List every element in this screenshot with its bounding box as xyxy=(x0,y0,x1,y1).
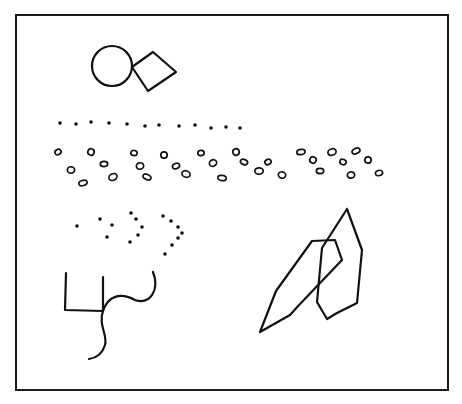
ring-mark xyxy=(375,170,383,177)
wavy-figure xyxy=(65,272,155,359)
dot-mark xyxy=(169,219,173,223)
dot-mark xyxy=(98,217,102,221)
circle-diamond-group xyxy=(92,46,176,91)
ring-mark xyxy=(136,162,144,170)
gestalt-figure xyxy=(0,0,462,404)
dot-mark xyxy=(136,233,140,237)
dot-mark xyxy=(209,126,213,130)
ring-mark xyxy=(240,158,249,166)
diamond-shape xyxy=(132,52,176,91)
dot-row xyxy=(58,120,242,130)
dot-mark xyxy=(110,223,114,227)
dot-mark xyxy=(180,231,184,235)
ring-mark xyxy=(351,147,361,156)
ring-mark xyxy=(309,156,318,165)
dot-mark xyxy=(129,211,133,215)
ring-mark xyxy=(255,168,264,175)
ring-mark xyxy=(316,168,324,174)
circle-shape xyxy=(92,46,132,86)
ring-mark xyxy=(296,149,305,156)
dot-mark xyxy=(75,224,79,228)
dot-mark xyxy=(157,123,161,127)
figure-frame xyxy=(16,15,448,390)
dot-mark xyxy=(177,124,181,128)
square-bracket-shape xyxy=(65,273,103,311)
ring-mark xyxy=(217,175,226,181)
ring-mark xyxy=(161,152,168,159)
overlapping-polygons xyxy=(260,209,362,332)
dot-mark xyxy=(176,225,180,229)
dot-mark xyxy=(140,225,144,229)
ring-mark xyxy=(108,172,118,181)
dot-mark xyxy=(89,120,93,124)
dot-mark xyxy=(107,121,111,125)
dot-arrow-cluster xyxy=(75,211,184,256)
dot-mark xyxy=(163,252,167,256)
dot-mark xyxy=(58,121,62,125)
ring-mark xyxy=(100,161,108,166)
ring-mark xyxy=(172,162,181,169)
dot-mark xyxy=(224,125,228,129)
dot-mark xyxy=(105,235,109,239)
wavy-line-shape xyxy=(89,272,155,359)
ring-pattern xyxy=(54,147,383,187)
ring-mark xyxy=(232,148,240,156)
ring-mark xyxy=(181,170,191,179)
ring-mark xyxy=(264,158,272,165)
ring-mark xyxy=(87,148,95,156)
dot-mark xyxy=(128,240,132,244)
dot-mark xyxy=(176,236,180,240)
ring-mark xyxy=(327,148,337,157)
dot-mark xyxy=(161,214,165,218)
ring-mark xyxy=(339,159,347,166)
ring-mark xyxy=(142,173,152,181)
dot-mark xyxy=(134,217,138,221)
ring-mark xyxy=(67,166,75,173)
ring-mark xyxy=(130,150,137,156)
dot-mark xyxy=(238,126,242,130)
ring-mark xyxy=(78,179,88,186)
ring-mark xyxy=(54,148,62,156)
dot-mark xyxy=(193,123,197,127)
ring-mark xyxy=(198,150,205,156)
dot-mark xyxy=(125,122,129,126)
ring-mark xyxy=(347,171,355,178)
ring-mark xyxy=(208,158,218,167)
ring-mark xyxy=(278,171,287,179)
dot-mark xyxy=(143,124,147,128)
dot-mark xyxy=(74,122,78,126)
dot-mark xyxy=(170,243,174,247)
ring-mark xyxy=(364,156,371,163)
